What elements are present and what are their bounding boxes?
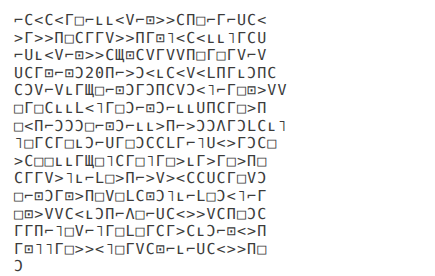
glyph-line: □⊡>VVϹ<ʟƆΠ⌐Λ□⌐UϹ<>>VϹΠ□ƆϹ — [14, 206, 425, 224]
glyph-line: ϹƆV⌐VʟΓЩ□⌐⊡ƆΓƆΠϹVƆ<˥⌐Γ□⊡>VV — [14, 82, 425, 100]
glyph-line: ˥□ΓϹΓ□ʟƆ⌐UΓ□ƆϹϹLΓ⌐˥U<>ΓƆϹ□ — [14, 135, 425, 153]
glyph-line: >Γ>>Π□ϹΓΓV>>ΠΓ⊡˥<Ϲ<ʟʟ˥ΓϹU — [14, 30, 425, 48]
glyph-line: Ɔ — [14, 258, 425, 276]
glyph-line: ΓΓΠ⌐˥□V⌐˥Γ□L□ΓϹΓ>ϹʟƆ⌐⊡<>Π — [14, 223, 425, 241]
glyph-line: ⌐Uʟ<V⌐⊡>>ϹЩ⊡ϹVΓVVΠ□Γ□ΓV⌐V — [14, 47, 425, 65]
glyph-line: □Γ□ϹʟʟL<˥Γ□Ɔ⌐⊡Ɔ⌐ʟʟUΠϹΓ□>Π — [14, 100, 425, 118]
glyph-line: □<Π⌐ƆƆƆ□⌐⊡Ɔ⌐ʟʟ>Π⌐>ƆƆΛΓƆLϹʟ˥ — [14, 118, 425, 136]
glyph-line: >Ϲ□□ʟʟΓЩ□˥ϹΓ□˥Γ□>ʟΓ>Γ□>Π□ — [14, 153, 425, 171]
glyph-line: ⌐Ϲ<Ϲ<Γ□⌐ʟʟ<V⌐⊡>>ϹΠ□⌐Γ⌐UϹ< — [14, 12, 425, 30]
glyph-line: Γ⊡˥˥Γ□>><˥□ΓVϹ⊡⌐ʟ⌐UϹ<>>Π□ — [14, 241, 425, 259]
glyph-line: ϹΓΓV>˥ʟ⌐L□>Π⌐>V><ϹϹUϹΓ□VƆ — [14, 170, 425, 188]
glyph-line: □⌐⊡ƆΓ⊡>Π□V□LϹ⊡Ɔ˥ʟ⌐L□Ɔ<˥⌐Γ — [14, 188, 425, 206]
glyph-line: UϹΓ⊡⌐⊡Ɔ20Π⌐>Ɔ<ʟϹ<V<LΠΓʟƆΠϹ — [14, 65, 425, 83]
